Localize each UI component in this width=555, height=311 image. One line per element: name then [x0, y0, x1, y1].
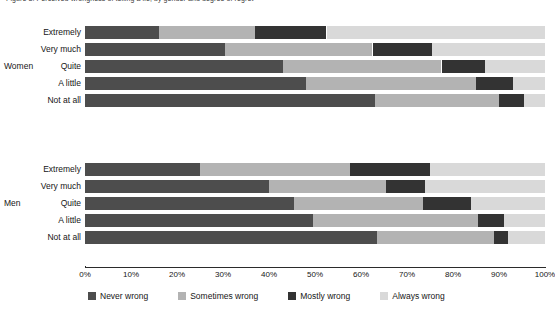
legend-item: Never wrong — [88, 291, 148, 301]
bar-row — [85, 214, 545, 227]
bar-segment-mostly-wrong — [350, 163, 431, 176]
bar-segment-sometimes-wrong — [159, 26, 256, 39]
bar-segment-sometimes-wrong — [313, 214, 479, 227]
bar-segment-never-wrong — [85, 180, 269, 193]
x-tick-label: 40% — [261, 269, 277, 281]
legend-label: Always wrong — [392, 291, 444, 301]
bar-segment-sometimes-wrong — [375, 94, 499, 107]
x-tick-label: 60% — [353, 269, 369, 281]
chart-title: Figure 3. Perceived wrongness of telling… — [6, 0, 254, 3]
bar-segment-never-wrong — [85, 60, 283, 73]
bar-segment-never-wrong — [85, 163, 200, 176]
bar-row — [85, 231, 545, 244]
x-tick-label: 50% — [307, 269, 323, 281]
legend-label: Sometimes wrong — [190, 291, 258, 301]
bar-segment-never-wrong — [85, 197, 294, 210]
legend-label: Mostly wrong — [300, 291, 350, 301]
x-tick-label: 30% — [215, 269, 231, 281]
x-tick-label: 90% — [491, 269, 507, 281]
bar-segment-sometimes-wrong — [306, 77, 476, 90]
bar-segment-mostly-wrong — [494, 231, 508, 244]
legend-swatch-always-wrong — [380, 292, 388, 300]
bar-segment-always-wrong — [504, 214, 545, 227]
bar-segment-never-wrong — [85, 77, 306, 90]
bar-row — [85, 94, 545, 107]
bar-segment-mostly-wrong — [255, 26, 326, 39]
bar-segment-always-wrong — [471, 197, 545, 210]
x-tick-label: 80% — [445, 269, 461, 281]
legend-label: Never wrong — [100, 291, 148, 301]
bar-segment-sometimes-wrong — [269, 180, 386, 193]
bar-row — [85, 180, 545, 193]
bar-segment-sometimes-wrong — [283, 60, 442, 73]
bar-segment-mostly-wrong — [476, 77, 513, 90]
category-label: Quite — [0, 60, 81, 73]
bar-segment-always-wrong — [432, 43, 545, 56]
bar-segment-mostly-wrong — [423, 197, 471, 210]
category-label: A little — [0, 77, 81, 90]
bar-segment-always-wrong — [430, 163, 545, 176]
bar-row — [85, 197, 545, 210]
bar-row — [85, 43, 545, 56]
x-tick-label: 0% — [79, 269, 91, 281]
bar-segment-sometimes-wrong — [225, 43, 372, 56]
category-label: Very much — [0, 43, 81, 56]
legend-swatch-sometimes-wrong — [178, 292, 186, 300]
bar-segment-sometimes-wrong — [377, 231, 494, 244]
legend-item: Mostly wrong — [288, 291, 350, 301]
x-tick-label: 10% — [123, 269, 139, 281]
x-tick-label: 20% — [169, 269, 185, 281]
legend-swatch-never-wrong — [88, 292, 96, 300]
bar-segment-sometimes-wrong — [294, 197, 423, 210]
bar-segment-mostly-wrong — [373, 43, 433, 56]
bar-segment-sometimes-wrong — [200, 163, 350, 176]
bar-segment-never-wrong — [85, 26, 159, 39]
category-label: A little — [0, 214, 81, 227]
bar-segment-mostly-wrong — [478, 214, 503, 227]
bar-segment-always-wrong — [485, 60, 545, 73]
bar-row — [85, 163, 545, 176]
bar-row — [85, 77, 545, 90]
bar-row — [85, 26, 545, 39]
category-label: Very much — [0, 180, 81, 193]
bar-segment-always-wrong — [524, 94, 545, 107]
bar-segment-never-wrong — [85, 231, 377, 244]
x-axis-line — [85, 267, 546, 268]
bar-segment-never-wrong — [85, 94, 375, 107]
category-label: Quite — [0, 197, 81, 210]
category-label: Extremely — [0, 26, 81, 39]
chart-legend: Never wrongSometimes wrongMostly wrongAl… — [88, 291, 445, 301]
bar-segment-always-wrong — [425, 180, 545, 193]
bar-segment-always-wrong — [508, 231, 545, 244]
x-tick-label: 70% — [399, 269, 415, 281]
category-label: Not at all — [0, 231, 81, 244]
bar-segment-never-wrong — [85, 214, 313, 227]
bar-segment-mostly-wrong — [499, 94, 524, 107]
legend-swatch-mostly-wrong — [288, 292, 296, 300]
bar-segment-always-wrong — [327, 26, 546, 39]
bar-segment-never-wrong — [85, 43, 225, 56]
x-tick-label: 100% — [535, 269, 555, 281]
bar-row — [85, 60, 545, 73]
legend-item: Sometimes wrong — [178, 291, 258, 301]
category-label: Not at all — [0, 94, 81, 107]
bar-segment-always-wrong — [513, 77, 545, 90]
category-label: Extremely — [0, 163, 81, 176]
bar-segment-mostly-wrong — [442, 60, 486, 73]
bar-segment-mostly-wrong — [386, 180, 425, 193]
legend-item: Always wrong — [380, 291, 444, 301]
